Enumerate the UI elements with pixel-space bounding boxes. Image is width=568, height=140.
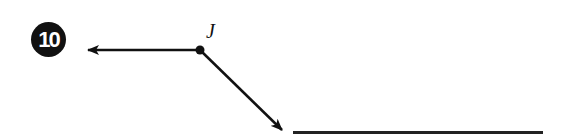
angle-diagram bbox=[0, 0, 568, 140]
vertex-point bbox=[196, 46, 205, 55]
vertex-label: J bbox=[206, 20, 215, 43]
answer-blank[interactable] bbox=[293, 131, 543, 134]
diagonal-ray bbox=[200, 50, 282, 130]
